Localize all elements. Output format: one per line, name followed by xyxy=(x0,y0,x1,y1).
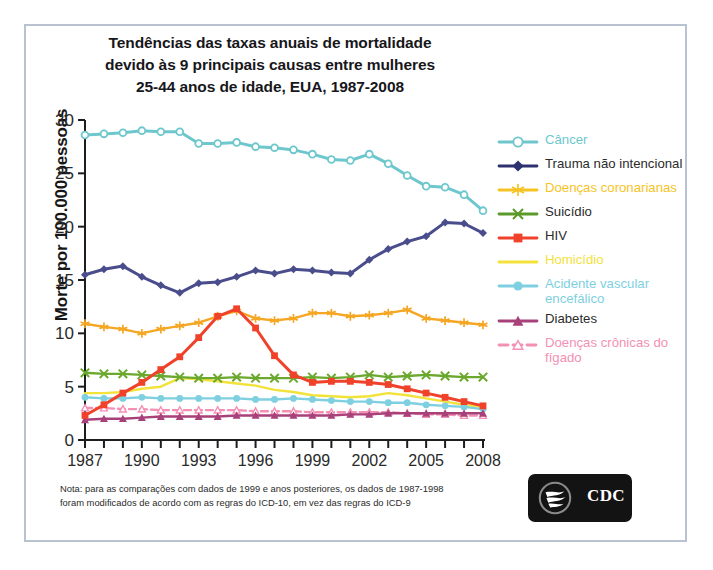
series-line xyxy=(81,305,488,337)
legend-marker-icon xyxy=(497,132,539,152)
legend-item-label: Câncer xyxy=(545,131,588,147)
legend-item[interactable]: HIV xyxy=(497,227,692,248)
legend-item[interactable]: Diabetes xyxy=(497,310,692,331)
x-tick-label: 1996 xyxy=(238,452,274,469)
y-tick-label: 25 xyxy=(55,164,74,183)
x-tick-label: 2008 xyxy=(465,452,501,469)
legend-item[interactable]: Doenças coronarianas xyxy=(497,179,692,200)
legend-marker-icon xyxy=(497,335,539,355)
legend-item[interactable]: Doenças crônicas do fígado xyxy=(497,334,692,366)
legend-item[interactable]: Suicídio xyxy=(497,203,692,224)
x-tick-label: 2005 xyxy=(408,452,444,469)
legend-item[interactable]: Trauma não intencional xyxy=(497,155,692,176)
legend-item-label: Suicídio xyxy=(545,203,592,219)
legend-marker-icon xyxy=(497,156,539,176)
x-tick-label: 1987 xyxy=(67,452,103,469)
legend-item[interactable]: Câncer xyxy=(497,131,692,152)
legend-item-label: Diabetes xyxy=(545,310,597,326)
y-tick-label: 0 xyxy=(65,431,74,450)
legend-marker-icon xyxy=(497,180,539,200)
y-tick-label: 20 xyxy=(55,218,74,237)
cdc-wordmark: CDC xyxy=(587,486,625,506)
legend-marker-icon xyxy=(497,311,539,331)
y-tick-label: 30 xyxy=(55,111,74,130)
y-tick-label: 15 xyxy=(55,271,74,290)
legend-item-label: Homicídio xyxy=(545,251,604,267)
legend-item[interactable]: Acidente vascular encefálico xyxy=(497,275,692,307)
legend-marker-icon xyxy=(497,204,539,224)
legend-item-label: Acidente vascular encefálico xyxy=(545,275,692,307)
chart-legend: CâncerTrauma não intencionalDoenças coro… xyxy=(497,131,692,369)
series-line xyxy=(82,127,487,214)
footnote-line-1: Nota: para as comparações com dados de 1… xyxy=(60,482,480,496)
x-tick-label: 1999 xyxy=(295,452,331,469)
hhs-bird-icon xyxy=(536,479,574,517)
chart-figure: Tendências das taxas anuais de mortalida… xyxy=(0,0,713,570)
footnote: Nota: para as comparações com dados de 1… xyxy=(60,482,480,509)
y-tick-label: 5 xyxy=(65,378,74,397)
legend-item[interactable]: Homicídio xyxy=(497,251,692,272)
legend-item-label: HIV xyxy=(545,227,567,243)
y-tick-label: 10 xyxy=(55,324,74,343)
legend-item-label: Doenças coronarianas xyxy=(545,179,677,195)
legend-item-label: Doenças crônicas do fígado xyxy=(545,334,692,366)
x-tick-label: 1993 xyxy=(181,452,217,469)
legend-marker-icon xyxy=(497,228,539,248)
footnote-line-2: foram modificados de acordo com as regra… xyxy=(60,496,480,510)
series-line xyxy=(81,218,487,296)
cdc-logo: CDC xyxy=(528,474,632,522)
legend-item-label: Trauma não intencional xyxy=(545,155,682,171)
legend-marker-icon xyxy=(497,252,539,272)
x-tick-label: 2002 xyxy=(351,452,387,469)
x-tick-label: 1990 xyxy=(124,452,160,469)
legend-marker-icon xyxy=(497,276,539,296)
